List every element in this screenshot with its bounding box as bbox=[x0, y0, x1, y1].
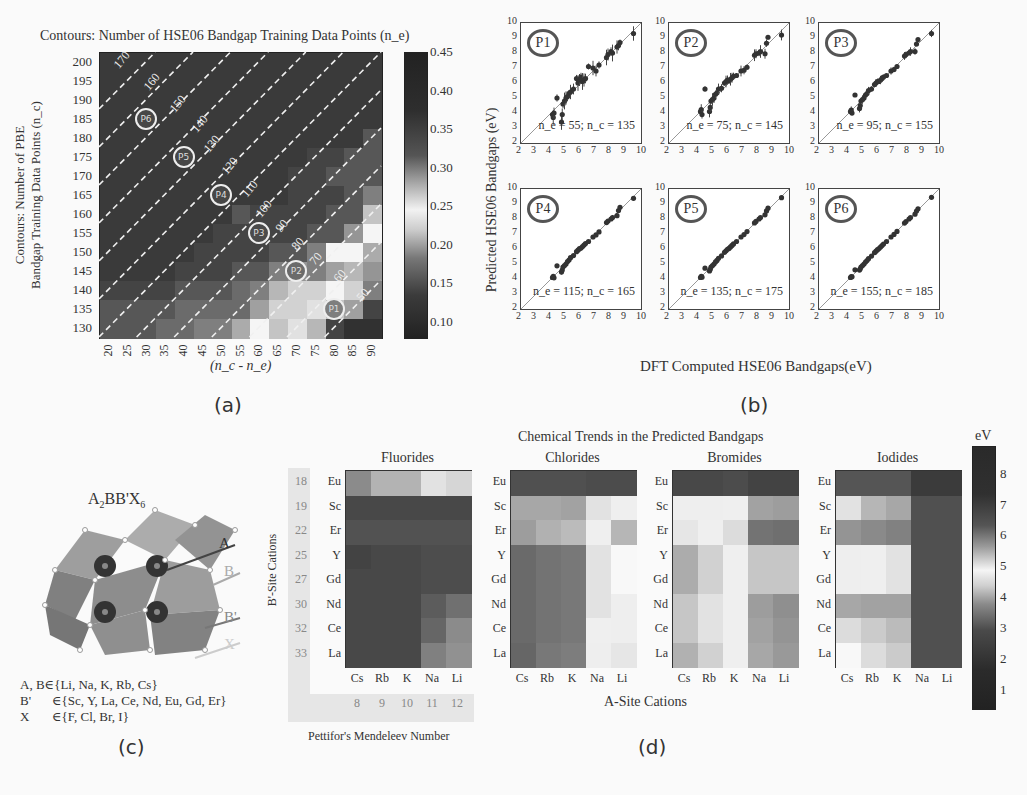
col-label: K bbox=[561, 671, 583, 686]
y-tick-label: 9 bbox=[805, 30, 815, 41]
heatmap-cell bbox=[911, 545, 937, 570]
heatmap-title-iodides: Iodides bbox=[835, 450, 960, 466]
colorbar-tick-label: 0.45 bbox=[430, 44, 453, 60]
scatter-tag-p2: P2 bbox=[675, 29, 707, 57]
y-tick-label: 7 bbox=[805, 60, 815, 71]
x-tick-label: 10 bbox=[784, 310, 794, 321]
heatmap-cell bbox=[371, 618, 397, 643]
heatmap-cell bbox=[611, 594, 637, 619]
heatmap-cell bbox=[936, 496, 962, 521]
colorbar-tick-label: 6 bbox=[1000, 527, 1007, 543]
heatmap-cell bbox=[936, 545, 962, 570]
y-tick-label: 9 bbox=[655, 196, 665, 207]
x-tick-label: 45 bbox=[195, 341, 210, 361]
x-tick-label: 40 bbox=[176, 341, 191, 361]
heatmap-cell bbox=[346, 520, 372, 545]
y-tick-label: 3 bbox=[655, 120, 665, 131]
heatmap-cell bbox=[371, 594, 397, 619]
heatmap-cell bbox=[698, 643, 724, 668]
chart-d-ylabel: B'-Site Cations bbox=[265, 534, 280, 607]
heatmap-cell bbox=[561, 618, 587, 643]
heatmap-cell bbox=[446, 520, 472, 545]
y-tick-label: 3 bbox=[507, 120, 517, 131]
heatmap-cell bbox=[698, 520, 724, 545]
chart-d-title: Chemical Trends in the Predicted Bandgap… bbox=[518, 429, 763, 445]
x-tick-label: 4 bbox=[844, 310, 849, 321]
x-tick-label: 5 bbox=[709, 310, 714, 321]
y-tick-label: 3 bbox=[805, 120, 815, 131]
site-legend: A, B∈{Li, Na, K, Rb, Cs} B'∈{Sc, Y, La, … bbox=[20, 677, 226, 725]
heatmap-cell bbox=[611, 545, 637, 570]
row-label: Er bbox=[805, 523, 831, 538]
heatmap-cell bbox=[886, 643, 912, 668]
heatmap-cell bbox=[511, 594, 537, 619]
heatmap-cell bbox=[861, 520, 887, 545]
contour-line bbox=[249, 204, 381, 337]
mendeleev-col-number: 8 bbox=[346, 696, 368, 711]
y-tick-label: 7 bbox=[805, 226, 815, 237]
row-label: Ce bbox=[480, 621, 506, 636]
heatmap-cell bbox=[536, 471, 562, 496]
x-tick-label: 7 bbox=[889, 310, 894, 321]
heatmap-cell bbox=[586, 594, 612, 619]
panel-label-a: (a) bbox=[214, 393, 242, 417]
colorbar-tick-label: 0.35 bbox=[430, 121, 453, 137]
mendeleev-row-number: 30 bbox=[287, 597, 307, 612]
heatmap-cell bbox=[723, 471, 749, 496]
y-tick-label: 4 bbox=[655, 105, 665, 116]
colorbar-tick-label: 1 bbox=[1000, 682, 1007, 698]
heatmap-cell bbox=[886, 496, 912, 521]
heatmap-cell bbox=[446, 471, 472, 496]
x-tick-label: 2 bbox=[814, 144, 819, 155]
x-tick-label: 5 bbox=[561, 144, 566, 155]
x-tick-label: 8 bbox=[606, 310, 611, 321]
y-tick-label: 7 bbox=[655, 226, 665, 237]
y-tick-label: 6 bbox=[507, 75, 517, 86]
colorbar-tick-label: 3 bbox=[1000, 620, 1007, 636]
x-tick-label: 7 bbox=[739, 144, 744, 155]
heatmap-cell bbox=[611, 496, 637, 521]
y-tick-label: 195 bbox=[62, 73, 92, 89]
heatmap-title-fluorides: Fluorides bbox=[345, 450, 470, 466]
col-label: Cs bbox=[673, 671, 695, 686]
heatmap-cell bbox=[561, 471, 587, 496]
heatmap-cell bbox=[446, 618, 472, 643]
col-label: Li bbox=[611, 671, 633, 686]
heatmap-cell bbox=[511, 618, 537, 643]
mendeleev-row-number: 33 bbox=[287, 646, 307, 661]
row-label: Er bbox=[642, 523, 668, 538]
row-label: La bbox=[480, 646, 506, 661]
heatmap-cell bbox=[536, 569, 562, 594]
y-tick-label: 165 bbox=[62, 187, 92, 203]
y-tick-label: 175 bbox=[62, 149, 92, 165]
heatmap-cell bbox=[396, 545, 422, 570]
x-tick-label: 5 bbox=[561, 310, 566, 321]
y-tick-label: 10 bbox=[655, 181, 665, 192]
colorbar-tick-label: 0.30 bbox=[430, 160, 453, 176]
marker-p5: P5 bbox=[173, 146, 195, 168]
heatmap-title-bromides: Bromides bbox=[672, 450, 797, 466]
heatmap-cell bbox=[421, 471, 447, 496]
heatmap-cell bbox=[698, 471, 724, 496]
y-tick-label: 180 bbox=[62, 130, 92, 146]
heatmap-cell bbox=[748, 520, 774, 545]
heatmap-cell bbox=[936, 594, 962, 619]
heatmap-cell bbox=[911, 569, 937, 594]
row-label: Y bbox=[642, 548, 668, 563]
scatter-plot-p5: P5n_e = 135; n_c = 175 bbox=[668, 188, 790, 310]
y-tick-label: 170 bbox=[62, 168, 92, 184]
heatmap-cell bbox=[511, 520, 537, 545]
x-tick-label: 8 bbox=[904, 310, 909, 321]
heatmap-cell bbox=[886, 569, 912, 594]
heatmap-cell bbox=[773, 520, 799, 545]
heatmap-cell bbox=[886, 471, 912, 496]
heatmap-cell bbox=[886, 618, 912, 643]
heatmap-cell bbox=[586, 471, 612, 496]
chart-a-ylabel: Contours: Number of PBE Bandgap Training… bbox=[12, 101, 44, 289]
scatter-tag-p6: P6 bbox=[825, 195, 857, 223]
heatmap-cell bbox=[673, 618, 699, 643]
heatmap-cell bbox=[723, 496, 749, 521]
heatmap-cell bbox=[511, 545, 537, 570]
contour-line bbox=[174, 128, 381, 337]
chart-a-ylabel-line2: Bandgap Training Data Points (n_c) bbox=[28, 101, 44, 289]
